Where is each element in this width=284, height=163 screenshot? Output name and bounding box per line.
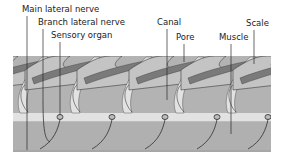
diagram-canvas: Main lateral nerve Branch lateral nerve …	[0, 0, 284, 163]
body-section	[0, 56, 284, 152]
label-main-lateral-nerve: Main lateral nerve	[22, 4, 99, 14]
label-muscle: Muscle	[219, 32, 248, 42]
label-sensory-organ: Sensory organ	[51, 30, 112, 40]
label-branch-lateral-nerve: Branch lateral nerve	[38, 17, 125, 27]
lateral-line-diagram: Main lateral nerve Branch lateral nerve …	[0, 0, 284, 163]
muscle-region	[13, 122, 271, 152]
label-canal: Canal	[157, 17, 181, 27]
label-scale: Scale	[246, 18, 269, 28]
labels: Main lateral nerve Branch lateral nerve …	[22, 4, 269, 42]
lateral-line-canal	[13, 113, 271, 122]
label-pore: Pore	[176, 32, 195, 42]
